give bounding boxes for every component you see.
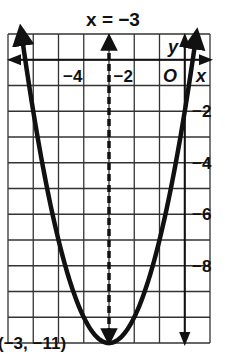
vertex-label: (−3, −11)	[0, 334, 66, 353]
y-axis-label: y	[167, 37, 179, 57]
y-tick-label: −2	[192, 102, 211, 121]
x-axis-label: x	[195, 66, 207, 86]
parabola-graph: x = −3yxO−4−2−2−4−6−8(−3, −11)	[0, 0, 225, 357]
y-tick-label: −8	[192, 257, 211, 276]
origin-label: O	[163, 66, 177, 86]
y-tick-label: −4	[192, 154, 212, 173]
symmetry-label: x = −3	[86, 9, 140, 30]
y-tick-label: −6	[192, 205, 211, 224]
x-tick-label: −2	[114, 67, 133, 86]
x-tick-label: −4	[63, 67, 83, 86]
